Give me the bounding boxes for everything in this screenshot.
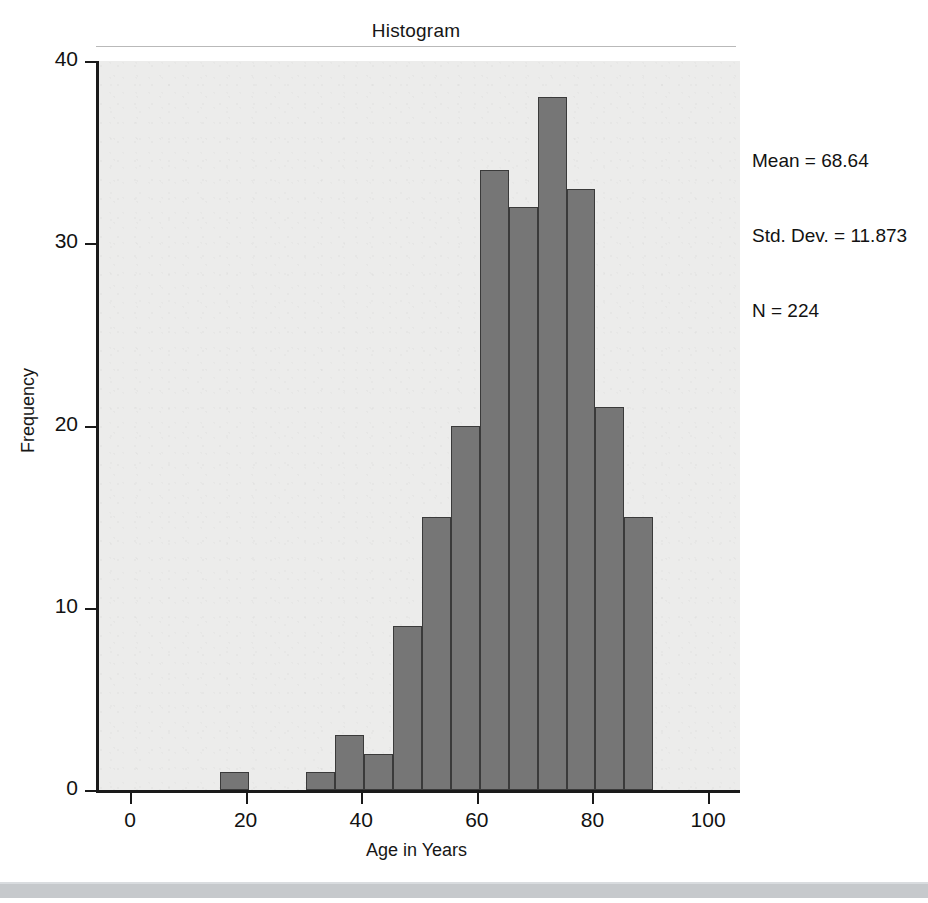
y-tick — [85, 243, 96, 245]
histogram-bar — [595, 407, 624, 790]
x-tick-label: 40 — [326, 808, 396, 832]
bars-layer — [99, 61, 740, 790]
x-tick-label: 60 — [442, 808, 512, 832]
x-tick — [592, 793, 594, 804]
histogram-bar — [538, 97, 567, 790]
y-tick — [85, 426, 96, 428]
y-tick — [85, 790, 96, 792]
y-tick — [85, 608, 96, 610]
page-bottom-band — [0, 884, 928, 898]
x-tick — [361, 793, 363, 804]
histogram-bar — [624, 517, 653, 790]
histogram-bar — [422, 517, 451, 790]
y-tick-label: 40 — [20, 47, 78, 71]
histogram-bar — [393, 626, 422, 790]
histogram-bar — [480, 170, 509, 790]
y-axis-label: Frequency — [18, 321, 39, 501]
mean-value: Mean = 68.64 — [752, 148, 907, 173]
plot-area — [96, 61, 740, 793]
x-tick-label: 100 — [673, 808, 743, 832]
title-divider — [96, 46, 736, 47]
x-tick-label: 80 — [557, 808, 627, 832]
statistics-annotation: Mean = 68.64 Std. Dev. = 11.873 N = 224 — [752, 98, 907, 373]
y-tick-label: 30 — [20, 229, 78, 253]
x-tick-label: 0 — [95, 808, 165, 832]
std-dev-value: Std. Dev. = 11.873 — [752, 223, 907, 248]
sample-size-value: N = 224 — [752, 298, 907, 323]
histogram-figure: Histogram 020406080100 010203040 Age in … — [0, 0, 928, 903]
y-tick-label: 0 — [20, 776, 78, 800]
x-tick — [477, 793, 479, 804]
x-tick — [130, 793, 132, 804]
histogram-bar — [306, 772, 335, 790]
y-tick — [85, 61, 96, 63]
histogram-bar — [509, 207, 538, 790]
x-axis-label: Age in Years — [96, 840, 737, 861]
histogram-bar — [220, 772, 249, 790]
x-tick — [246, 793, 248, 804]
y-tick-label: 10 — [20, 594, 78, 618]
histogram-bar — [364, 754, 393, 790]
histogram-bar — [451, 426, 480, 791]
chart-title: Histogram — [96, 20, 736, 42]
x-tick-label: 20 — [211, 808, 281, 832]
histogram-bar — [335, 735, 364, 790]
x-tick — [708, 793, 710, 804]
histogram-bar — [567, 189, 596, 790]
